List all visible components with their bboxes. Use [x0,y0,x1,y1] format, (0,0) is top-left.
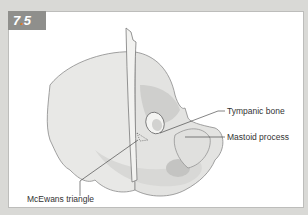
label-tympanic-bone: Tympanic bone [227,106,285,116]
figure-number-minor: 5 [24,13,31,28]
label-mcewans-triangle: McEwans triangle [27,194,94,204]
figure-number-badge: 7.5 [8,11,46,30]
label-mastoid-process: Mastoid process [227,132,289,142]
